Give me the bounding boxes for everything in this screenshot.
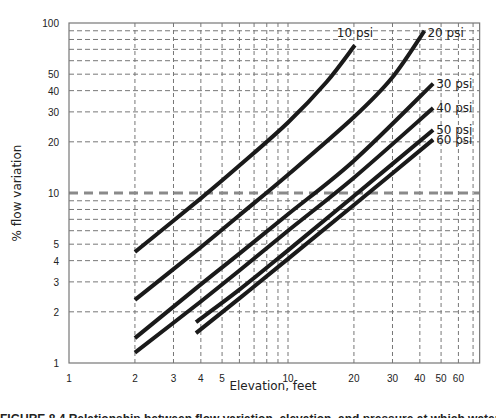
- series-line-60-psi: [196, 140, 433, 333]
- series-line-30-psi: [135, 84, 433, 339]
- x-tick-label: 3: [171, 373, 177, 384]
- x-tick-label: 20: [348, 373, 360, 384]
- y-tick-label: 4: [53, 256, 59, 267]
- x-tick-label: 2: [132, 373, 138, 384]
- y-tick-label: 2: [53, 307, 59, 318]
- series-label: 40 psi: [436, 101, 472, 115]
- y-tick-label: 30: [48, 107, 60, 118]
- y-tick-label: 100: [42, 18, 59, 29]
- series-label: 30 psi: [436, 77, 472, 91]
- y-tick-label: 3: [53, 277, 59, 288]
- series-label: 60 psi: [436, 133, 472, 147]
- y-tick-label: 50: [48, 69, 60, 80]
- y-axis-ticks: 123451020304050100: [42, 18, 59, 369]
- flow-variation-chart: 10 psi20 psi30 psi40 psi50 psi60 psi 123…: [0, 0, 496, 418]
- x-tick-label: 50: [436, 373, 448, 384]
- y-tick-label: 10: [48, 188, 60, 199]
- x-tick-label: 30: [387, 373, 399, 384]
- x-tick-label: 4: [198, 373, 204, 384]
- figure-caption: FIGURE 8.4 Relationship between flow var…: [0, 408, 496, 418]
- x-tick-label: 5: [219, 373, 225, 384]
- y-tick-label: 40: [48, 86, 60, 97]
- series-line-50-psi: [196, 130, 433, 322]
- series-labels: 10 psi20 psi30 psi40 psi50 psi60 psi: [337, 26, 473, 147]
- series-line-40-psi: [135, 108, 433, 353]
- series-label: 20 psi: [427, 26, 463, 40]
- y-axis-label: % flow variation: [10, 145, 24, 242]
- x-tick-label: 1: [66, 373, 72, 384]
- y-tick-label: 5: [53, 239, 59, 250]
- series-label: 10 psi: [337, 26, 373, 40]
- x-tick-label: 40: [414, 373, 426, 384]
- y-tick-label: 20: [48, 137, 60, 148]
- x-axis-label: Elevation, feet: [229, 379, 316, 393]
- y-tick-label: 1: [53, 358, 59, 369]
- x-tick-label: 60: [453, 373, 465, 384]
